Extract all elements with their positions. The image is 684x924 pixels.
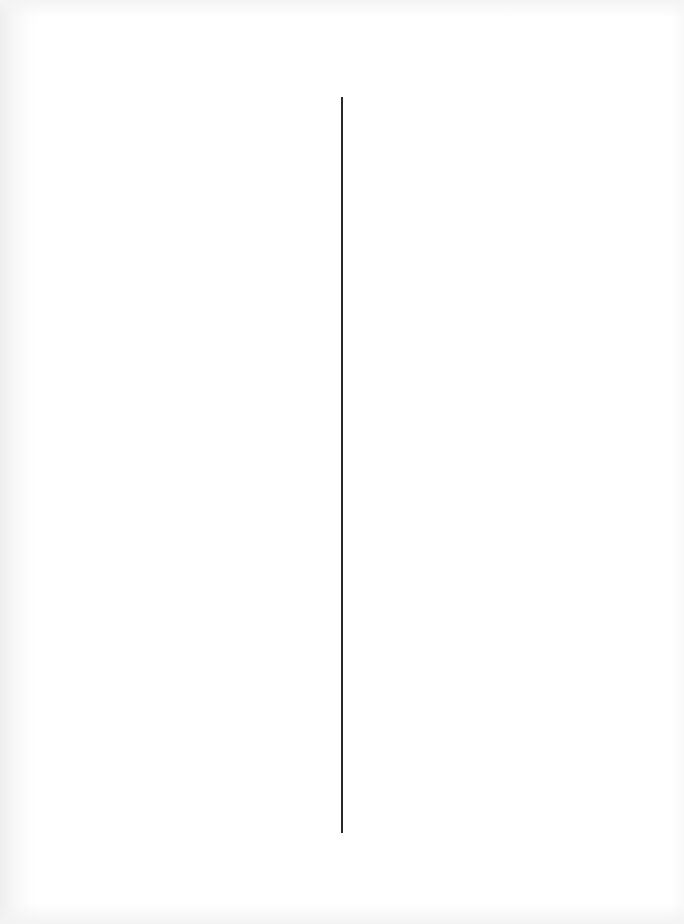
left-column [40, 97, 330, 833]
column-divider-line [341, 97, 343, 833]
document-page [0, 0, 684, 924]
scan-edge-top [0, 0, 684, 18]
right-column [354, 97, 654, 833]
scan-edge-bottom [0, 904, 684, 924]
